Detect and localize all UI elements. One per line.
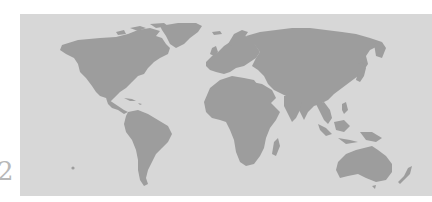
greenland xyxy=(160,23,202,48)
north-america xyxy=(60,28,170,102)
page-number: 2 xyxy=(0,158,14,184)
indonesia xyxy=(318,120,358,144)
madagascar xyxy=(272,138,280,156)
world-map xyxy=(20,14,432,196)
new-zealand xyxy=(398,166,412,184)
island-dot xyxy=(71,166,74,169)
south-america xyxy=(124,110,172,186)
caribbean-islands xyxy=(124,98,142,105)
central-america xyxy=(106,98,128,114)
philippines xyxy=(342,102,348,114)
india xyxy=(284,96,302,122)
page: 2 xyxy=(0,0,432,202)
tasmania xyxy=(372,185,376,189)
kamchatka xyxy=(374,42,386,58)
iceland xyxy=(212,31,222,35)
southeast-asia xyxy=(316,102,332,124)
australia xyxy=(336,146,392,182)
world-map-svg xyxy=(20,14,432,196)
new-guinea xyxy=(360,132,382,142)
